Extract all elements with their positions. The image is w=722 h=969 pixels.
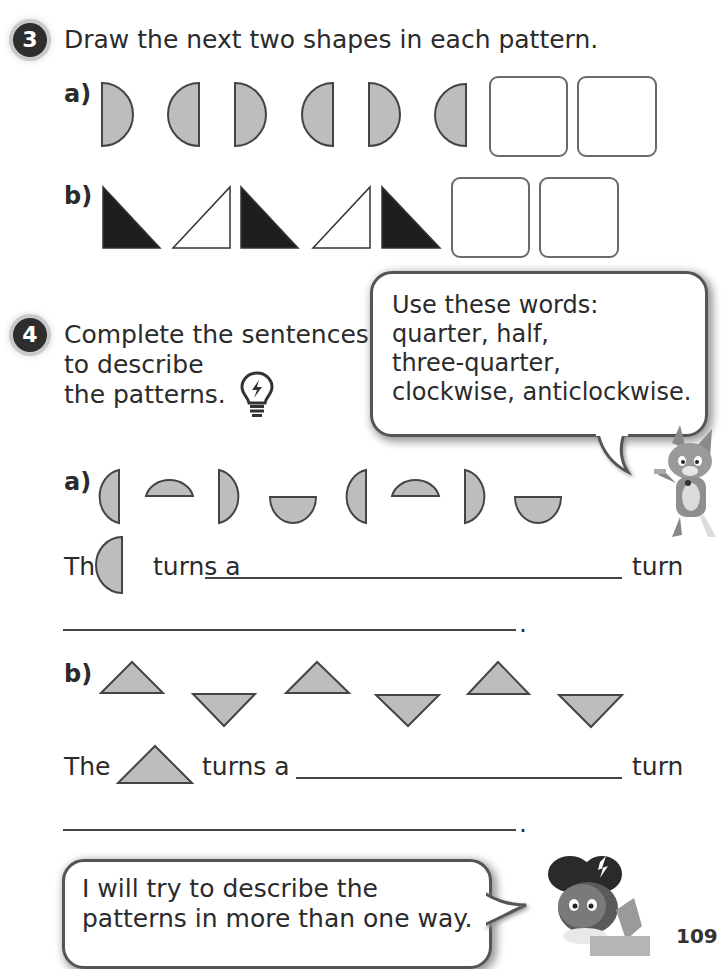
triangle-up-shape bbox=[468, 662, 529, 694]
triangle-up-shape bbox=[286, 662, 349, 693]
inline-triangle-icon bbox=[115, 743, 195, 788]
triangle-down-shape bbox=[376, 695, 439, 726]
triangle-down-shape bbox=[559, 695, 622, 727]
question-4b-sentence-mid: turns a bbox=[202, 752, 290, 781]
footer-bubble-line-2: patterns in more than one way. bbox=[82, 904, 472, 933]
triangle-down-shape bbox=[193, 694, 255, 726]
question-4b-period: . bbox=[519, 809, 527, 838]
question-4b-answer-line-1[interactable] bbox=[296, 777, 622, 779]
footer-bubble-line-1: I will try to describe the bbox=[82, 874, 378, 903]
page-number: 109 bbox=[676, 924, 718, 948]
triangle-up-shape bbox=[101, 662, 163, 693]
girl-character-illustration bbox=[530, 850, 660, 950]
question-4b-sentence-start: The bbox=[64, 752, 111, 781]
question-4b-sentence-end: turn bbox=[632, 752, 683, 781]
question-4b-answer-line-2[interactable] bbox=[63, 829, 516, 831]
